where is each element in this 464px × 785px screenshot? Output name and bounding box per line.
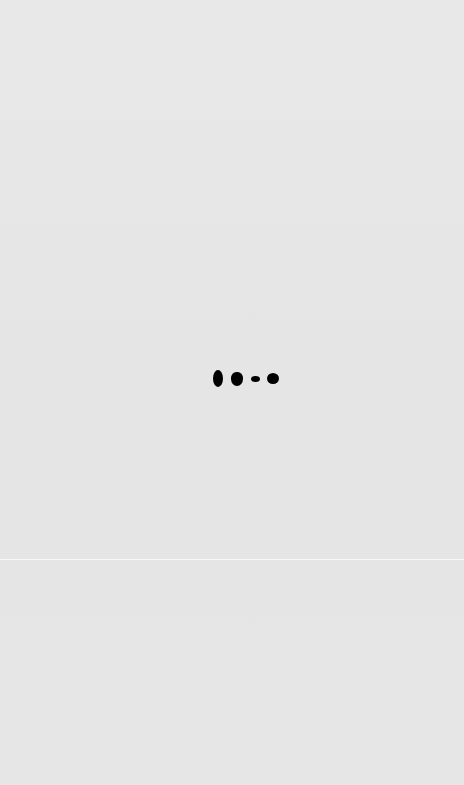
loading-dot-icon [251, 376, 260, 382]
loading-screen [0, 0, 464, 785]
loading-dot-icon [213, 370, 223, 387]
loading-indicator [0, 0, 464, 785]
loading-dot-icon [231, 372, 243, 386]
loading-dot-icon [267, 373, 279, 384]
divider-line [0, 559, 464, 560]
